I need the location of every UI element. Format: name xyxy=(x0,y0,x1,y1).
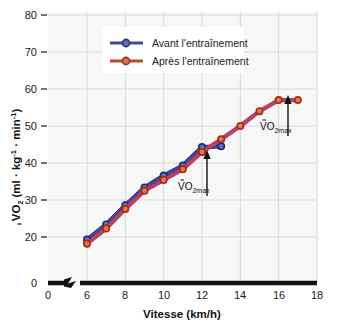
data-point-marker[interactable] xyxy=(180,166,186,172)
x-tick-label: 18 xyxy=(311,289,323,301)
x-axis-title: Vitesse (km/h) xyxy=(143,308,221,320)
y-tick-label: 50 xyxy=(25,120,37,132)
data-point-marker[interactable] xyxy=(122,206,128,212)
y-tick-label: 30 xyxy=(25,194,37,206)
data-point-marker[interactable] xyxy=(84,240,90,246)
data-point-marker[interactable] xyxy=(141,188,147,194)
data-point-marker[interactable] xyxy=(295,97,301,103)
x-axis-ticks: 0681012141618 xyxy=(45,289,323,301)
data-point-marker[interactable] xyxy=(218,143,224,149)
data-point-marker[interactable] xyxy=(256,108,262,114)
vo2-speed-line-chart: 807060504030200 0681012141618 VO2max VO2… xyxy=(0,0,339,324)
data-point-marker[interactable] xyxy=(218,136,224,142)
y-tick-label: 80 xyxy=(25,9,37,21)
y-tick-label: 70 xyxy=(25,46,37,58)
y-tick-label: 60 xyxy=(25,83,37,95)
data-point-marker[interactable] xyxy=(275,97,281,103)
x-tick-label: 0 xyxy=(45,289,51,301)
legend-marker-before xyxy=(122,39,129,46)
x-tick-label: 16 xyxy=(273,289,285,301)
data-point-marker[interactable] xyxy=(237,123,243,129)
x-tick-label: 14 xyxy=(234,289,246,301)
legend-label-after: Après l'entraînement xyxy=(152,55,249,67)
y-axis-ticks: 807060504030200 xyxy=(25,9,47,289)
x-tick-label: 6 xyxy=(84,289,90,301)
chart-legend: Avant l'entraînement Après l'entraînemen… xyxy=(102,27,249,73)
y-tick-label: 20 xyxy=(25,231,37,243)
legend-label-before: Avant l'entraînement xyxy=(152,37,248,49)
x-tick-label: 8 xyxy=(122,289,128,301)
x-tick-label: 10 xyxy=(158,289,170,301)
data-point-marker[interactable] xyxy=(103,225,109,231)
y-axis-title: VO2 (ml · kg-1 · min-1) xyxy=(9,109,24,224)
y-axis-title-text: VO2 (ml · kg-1 · min-1) xyxy=(9,109,24,222)
data-point-marker[interactable] xyxy=(160,177,166,183)
y-tick-label-zero: 0 xyxy=(31,277,37,289)
y-tick-label: 40 xyxy=(25,157,37,169)
legend-marker-after xyxy=(122,57,129,64)
chart-root: 807060504030200 0681012141618 VO2max VO2… xyxy=(0,0,339,324)
x-tick-label: 12 xyxy=(196,289,208,301)
data-point-marker[interactable] xyxy=(199,149,205,155)
